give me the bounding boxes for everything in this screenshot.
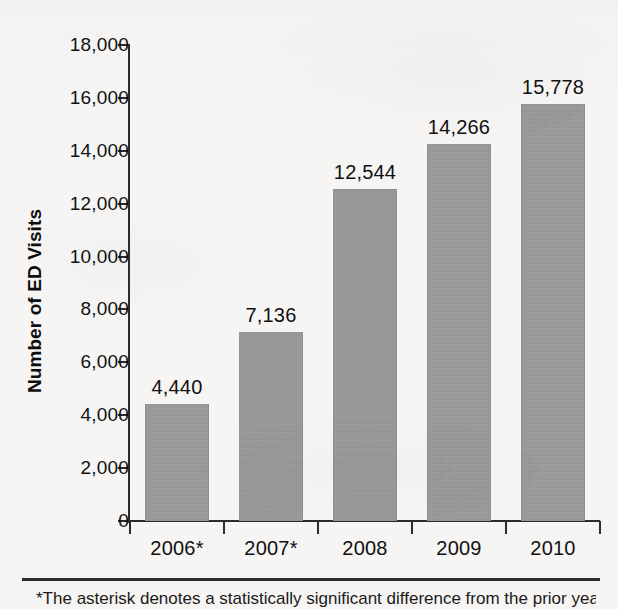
bar-slot: 12,544	[333, 44, 397, 521]
x-tick-mark	[505, 521, 507, 534]
bar[interactable]	[145, 404, 209, 521]
x-tick-mark	[599, 521, 601, 534]
y-tick-label: 18,000	[33, 34, 129, 56]
bar[interactable]	[333, 189, 397, 521]
x-tick-mark	[129, 521, 131, 534]
bar-slot: 15,778	[521, 44, 585, 521]
bar-slot: 4,440	[145, 44, 209, 521]
x-tick-mark	[223, 521, 225, 534]
y-tick-label: 0	[33, 510, 129, 532]
y-tick-label: 8,000	[33, 298, 129, 320]
y-tick-label: 2,000	[33, 457, 129, 479]
plot-area: 4,4407,13612,54414,26615,778	[130, 44, 600, 521]
y-tick-label: 6,000	[33, 351, 129, 373]
bar-value-label: 4,440	[119, 376, 235, 399]
bar-value-label: 12,544	[307, 161, 423, 184]
bar-slot: 7,136	[239, 44, 303, 521]
bar-value-label: 7,136	[213, 304, 329, 327]
bar[interactable]	[239, 332, 303, 521]
y-tick-label: 4,000	[33, 404, 129, 426]
y-tick-label: 12,000	[33, 193, 129, 215]
footer-divider	[22, 578, 600, 581]
bar-value-label: 14,266	[401, 116, 517, 139]
footnote-text: *The asterisk denotes a statistically si…	[36, 589, 596, 609]
y-tick-label: 16,000	[33, 87, 129, 109]
bar-value-label: 15,778	[495, 76, 611, 99]
bar-slot: 14,266	[427, 44, 491, 521]
x-tick-mark	[317, 521, 319, 534]
x-tick-label: 2010	[493, 537, 613, 560]
y-tick-label: 14,000	[33, 140, 129, 162]
bar[interactable]	[521, 104, 585, 521]
y-tick-label: 10,000	[33, 246, 129, 268]
bar[interactable]	[427, 144, 491, 521]
x-tick-mark	[411, 521, 413, 534]
